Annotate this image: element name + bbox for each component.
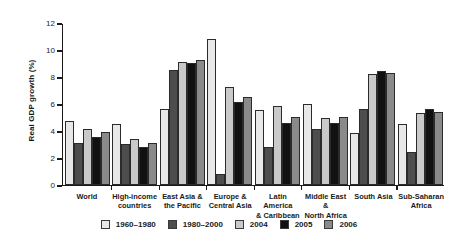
bar — [377, 71, 386, 184]
legend-swatch — [168, 220, 177, 229]
bar-group — [349, 24, 397, 185]
y-tick-label: 0 — [51, 182, 55, 190]
y-tick — [57, 77, 62, 78]
legend-swatch — [280, 220, 289, 229]
y-tick-label: 6 — [51, 101, 55, 109]
legend-label: 1960–1980 — [116, 220, 156, 229]
bar — [312, 129, 321, 184]
y-tick-label: 8 — [51, 74, 55, 82]
category-label: Middle East &North Africa — [302, 192, 350, 220]
bar-group — [254, 24, 302, 185]
bar-group — [159, 24, 207, 185]
legend-swatch — [324, 220, 333, 229]
bar — [291, 117, 300, 185]
bar-group — [301, 24, 349, 185]
legend-swatch — [101, 220, 110, 229]
bar — [92, 137, 101, 184]
legend-label: 1980–2000 — [183, 220, 223, 229]
category-label: East Asia &the Pacific — [159, 192, 207, 220]
category-label: World — [63, 192, 111, 220]
bar — [282, 123, 291, 185]
y-tick — [57, 131, 62, 132]
legend-item[interactable]: 2006 — [324, 220, 357, 229]
y-tick-label: 2 — [51, 155, 55, 163]
category-label: Sub-SaharanAfrica — [397, 192, 445, 220]
bar — [434, 112, 443, 185]
bar — [207, 39, 216, 185]
y-tick — [57, 185, 62, 186]
bar — [359, 109, 368, 185]
legend-item[interactable]: 2004 — [235, 220, 268, 229]
y-axis-title: Real GDP growth (%) — [27, 21, 36, 181]
legend-item[interactable]: 2005 — [280, 220, 313, 229]
group-separator-tick — [349, 185, 350, 190]
group-separator-tick — [254, 185, 255, 190]
bar — [216, 174, 225, 185]
bar — [196, 60, 205, 184]
bar — [425, 109, 434, 185]
legend-label: 2005 — [295, 220, 313, 229]
y-tick — [57, 23, 62, 24]
y-tick-label: 4 — [51, 128, 55, 136]
bar — [398, 124, 407, 185]
category-labels: WorldHigh-incomecountriesEast Asia &the … — [63, 192, 445, 220]
bar — [350, 133, 359, 184]
bar — [178, 62, 187, 185]
gdp-growth-bar-chart: Real GDP growth (%) 024681012 WorldHigh-… — [0, 0, 458, 247]
bar — [330, 123, 339, 185]
bar-group — [396, 24, 444, 185]
bar-groups — [63, 24, 444, 185]
bar — [187, 63, 196, 185]
legend-label: 2004 — [250, 220, 268, 229]
group-separator-tick — [206, 185, 207, 190]
legend-item[interactable]: 1960–1980 — [101, 220, 156, 229]
bar — [83, 129, 92, 184]
legend-label: 2006 — [339, 220, 357, 229]
y-tick — [57, 104, 62, 105]
bar-group — [206, 24, 254, 185]
bar — [321, 118, 330, 184]
legend-swatch — [235, 220, 244, 229]
bar-group — [111, 24, 159, 185]
bar — [243, 97, 252, 185]
bar — [121, 144, 130, 185]
category-label: Latin America& Caribbean — [254, 192, 302, 220]
category-label: Europe &Central Asia — [206, 192, 254, 220]
bar — [139, 147, 148, 185]
bar — [273, 106, 282, 184]
category-label: High-incomecountries — [111, 192, 159, 220]
bar — [74, 143, 83, 185]
chart-legend: 1960–19801980–2000200420052006 — [0, 220, 458, 229]
bar-group — [63, 24, 111, 185]
bar — [225, 87, 234, 184]
bar — [234, 102, 243, 184]
y-tick — [57, 50, 62, 51]
bar — [386, 73, 395, 185]
group-separator-tick — [111, 185, 112, 190]
bar — [130, 139, 139, 185]
bar — [169, 70, 178, 185]
y-tick — [57, 158, 62, 159]
y-tick-label: 12 — [46, 20, 55, 28]
bar — [264, 147, 273, 185]
group-separator-tick — [301, 185, 302, 190]
category-label: South Asia — [350, 192, 398, 220]
bar — [368, 74, 377, 185]
bar — [148, 143, 157, 185]
plot-area: 024681012 — [62, 24, 444, 186]
bar — [112, 124, 121, 185]
bar — [407, 152, 416, 184]
bar — [65, 121, 74, 184]
bar — [101, 132, 110, 185]
group-separator-tick — [396, 185, 397, 190]
legend-item[interactable]: 1980–2000 — [168, 220, 223, 229]
bar — [303, 104, 312, 185]
y-tick-label: 10 — [46, 47, 55, 55]
bar — [339, 117, 348, 185]
bar — [255, 110, 264, 184]
bar — [160, 109, 169, 185]
bar — [416, 113, 425, 185]
group-separator-tick — [159, 185, 160, 190]
